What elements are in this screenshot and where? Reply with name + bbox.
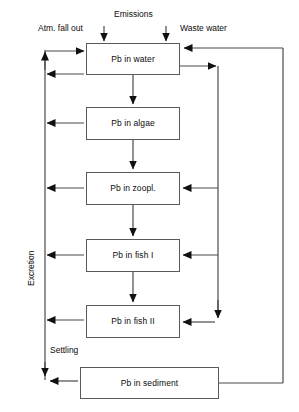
label-emissions: Emissions <box>114 10 153 19</box>
node-pb-in-water[interactable]: Pb in water <box>86 43 180 75</box>
node-label-fish-1: Pb in fish I <box>113 251 154 260</box>
node-pb-in-fish-1[interactable]: Pb in fish I <box>86 239 180 272</box>
node-label-algae: Pb in algae <box>111 119 155 128</box>
node-pb-in-zoopl[interactable]: Pb in zoopl. <box>86 172 180 205</box>
label-settling: Settling <box>50 346 78 355</box>
node-pb-in-fish-2[interactable]: Pb in fish II <box>86 305 180 338</box>
node-pb-in-sediment[interactable]: Pb in sediment <box>80 367 219 399</box>
label-excretion: Excretion <box>27 251 36 286</box>
node-label-fish-2: Pb in fish II <box>111 317 154 326</box>
node-label-water: Pb in water <box>111 55 155 64</box>
node-pb-in-algae[interactable]: Pb in algae <box>86 107 180 140</box>
node-label-sediment: Pb in sediment <box>121 379 179 388</box>
label-atm-fall-out: Atm. fall out <box>38 24 83 33</box>
diagram-canvas: Pb in water Pb in algae Pb in zoopl. Pb … <box>0 0 299 412</box>
node-label-zoopl: Pb in zoopl. <box>110 184 156 193</box>
label-waste-water: Waste water <box>180 24 227 33</box>
